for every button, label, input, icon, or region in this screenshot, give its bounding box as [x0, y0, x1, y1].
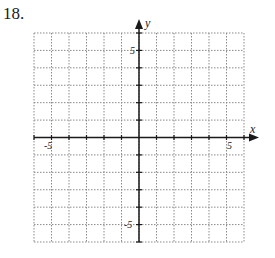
x-tick-label-neg5: -5: [44, 140, 52, 151]
axes: [34, 19, 259, 242]
x-tick-label-5: 5: [227, 140, 232, 151]
y-axis-arrow-icon: [135, 19, 143, 29]
y-axis-label: y: [144, 16, 151, 30]
coordinate-grid: x y -5 5 5 -5: [0, 0, 275, 258]
y-tick-label-neg5: -5: [124, 219, 132, 230]
y-tick-label-5: 5: [130, 45, 135, 56]
x-axis-label: x: [249, 122, 256, 136]
